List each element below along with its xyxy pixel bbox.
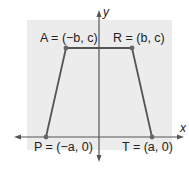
vertex-p-point	[44, 135, 49, 140]
vertex-r-point	[130, 46, 135, 51]
vertex-t-label: T = (a, 0)	[122, 140, 173, 154]
trapezoid-diagram: x y A = (−b, c) R = (b, c) P = (−a, 0) T…	[0, 0, 189, 170]
vertex-a-point	[64, 46, 69, 51]
vertex-p-label: P = (−a, 0)	[34, 140, 93, 154]
vertex-r-label: R = (b, c)	[113, 31, 165, 45]
vertex-a-label: A = (−b, c)	[40, 31, 98, 45]
y-axis-label: y	[102, 5, 110, 19]
vertex-t-point	[150, 135, 155, 140]
x-axis-label: x	[179, 121, 187, 135]
